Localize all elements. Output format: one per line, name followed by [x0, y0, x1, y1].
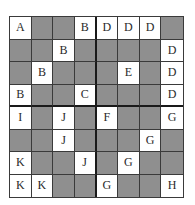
- letter-cell: F: [97, 107, 119, 130]
- letter-cell: I: [10, 107, 32, 130]
- shaded-cell: [161, 17, 183, 40]
- shaded-cell: [53, 152, 75, 175]
- letter-cell: K: [32, 175, 54, 198]
- shaded-cell: [32, 17, 54, 40]
- shaded-cell: [140, 85, 162, 108]
- letter-cell: G: [97, 175, 119, 198]
- shaded-cell: [53, 62, 75, 85]
- shaded-cell: [118, 107, 140, 130]
- shaded-cell: [10, 130, 32, 153]
- letter-cell: G: [118, 152, 140, 175]
- shaded-cell: [75, 107, 97, 130]
- shaded-cell: [75, 130, 97, 153]
- letter-cell: J: [53, 130, 75, 153]
- shaded-cell: [53, 17, 75, 40]
- letter-cell: K: [10, 175, 32, 198]
- letter-cell: B: [75, 17, 97, 40]
- letter-cell: C: [75, 85, 97, 108]
- shaded-cell: [75, 40, 97, 63]
- shaded-cell: [75, 175, 97, 198]
- shaded-cell: [75, 62, 97, 85]
- shaded-cell: [10, 62, 32, 85]
- letter-cell: D: [140, 17, 162, 40]
- shaded-cell: [140, 107, 162, 130]
- shaded-cell: [97, 40, 119, 63]
- letter-cell: B: [53, 40, 75, 63]
- letter-cell: G: [140, 130, 162, 153]
- letter-cell: J: [75, 152, 97, 175]
- shaded-cell: [97, 85, 119, 108]
- letter-cell: E: [118, 62, 140, 85]
- letter-cell: D: [118, 17, 140, 40]
- shaded-cell: [53, 175, 75, 198]
- shaded-cell: [97, 62, 119, 85]
- letter-cell: K: [10, 152, 32, 175]
- letter-cell: D: [97, 17, 119, 40]
- letter-cell: D: [161, 85, 183, 108]
- shaded-cell: [140, 152, 162, 175]
- shaded-cell: [118, 175, 140, 198]
- letter-cell: A: [10, 17, 32, 40]
- shaded-cell: [97, 152, 119, 175]
- shaded-cell: [53, 85, 75, 108]
- shaded-cell: [32, 107, 54, 130]
- letter-cell: B: [32, 62, 54, 85]
- shaded-cell: [32, 85, 54, 108]
- letter-cell: H: [161, 175, 183, 198]
- shaded-cell: [140, 40, 162, 63]
- letter-cell: B: [10, 85, 32, 108]
- shaded-cell: [32, 40, 54, 63]
- letter-cell: J: [53, 107, 75, 130]
- letter-grid: ABDDDBDBEDBCDIJFGJGKJGKKGH: [9, 16, 184, 198]
- letter-cell: D: [161, 62, 183, 85]
- shaded-cell: [118, 130, 140, 153]
- shaded-cell: [118, 40, 140, 63]
- shaded-cell: [161, 130, 183, 153]
- shaded-cell: [161, 152, 183, 175]
- shaded-cell: [10, 40, 32, 63]
- shaded-cell: [118, 85, 140, 108]
- letter-cell: D: [161, 40, 183, 63]
- shaded-cell: [140, 175, 162, 198]
- shaded-cell: [97, 130, 119, 153]
- shaded-cell: [32, 152, 54, 175]
- shaded-cell: [32, 130, 54, 153]
- shaded-cell: [140, 62, 162, 85]
- letter-cell: G: [161, 107, 183, 130]
